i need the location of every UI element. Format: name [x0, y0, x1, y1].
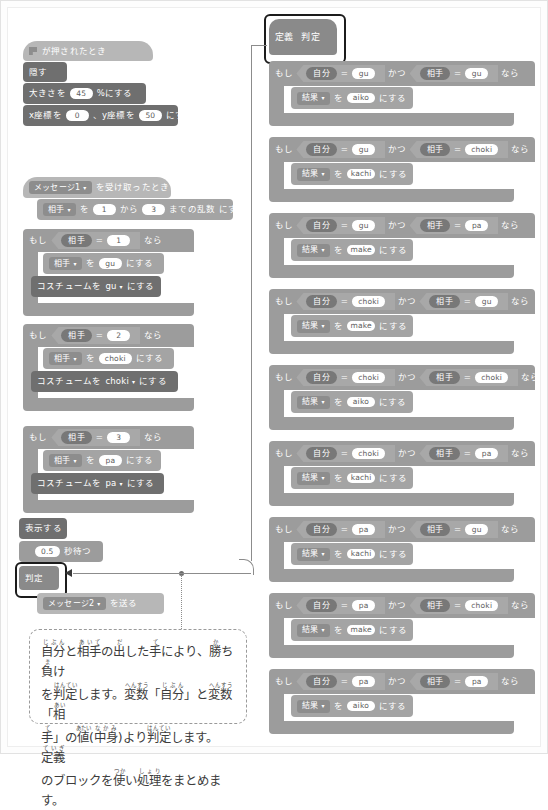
rule-1-condition-a[interactable]: 自分=gu	[296, 141, 385, 158]
if3-var[interactable]: 相手	[61, 431, 91, 444]
rule-7-result-var-dropdown[interactable]: 結果▾	[297, 624, 330, 637]
rule-1-header[interactable]: もし自分=guかつ相手=chokiなら	[269, 137, 535, 162]
rule-7-set-result[interactable]: 結果▾をmakeにする	[291, 619, 413, 641]
rule-6-condition-a[interactable]: 自分=pa	[296, 521, 385, 538]
if1-set-value[interactable]: gu	[99, 258, 122, 269]
if2-var[interactable]: 相手	[61, 329, 91, 342]
block-wait-seconds[interactable]: 0.5 秒待つ	[19, 541, 103, 562]
rule-4-set-result[interactable]: 結果▾をaikoにする	[291, 391, 413, 413]
goto-x-value[interactable]: 0	[66, 110, 89, 121]
block-set-aite-random[interactable]: 相手 ▾ を 1 から 3 までの乱数 にする	[37, 199, 233, 220]
hat-when-receive-message1[interactable]: メッセージ1 ▾ を受け取ったとき	[23, 177, 171, 198]
rule-4-b-value[interactable]: choki	[475, 372, 508, 383]
rule-6-b-value[interactable]: gu	[465, 524, 488, 535]
rule-3-result-value[interactable]: make	[347, 321, 376, 332]
if1-var[interactable]: 相手	[61, 234, 91, 247]
block-hide[interactable]: 隠す	[23, 62, 67, 82]
rule-1-b-value[interactable]: choki	[465, 144, 498, 155]
rule-2-header[interactable]: もし自分=guかつ相手=paなら	[269, 213, 535, 238]
rule-8-result-var-dropdown[interactable]: 結果▾	[297, 700, 330, 713]
rule-1-condition-b[interactable]: 相手=choki	[410, 141, 509, 158]
rule-2-result-value[interactable]: make	[347, 245, 376, 256]
if-block-1-header[interactable]: もし 相手 = 1 なら	[23, 229, 194, 252]
rule-3-set-result[interactable]: 結果▾をmakeにする	[291, 315, 413, 337]
rule-2-set-result[interactable]: 結果▾をmakeにする	[291, 239, 413, 261]
rule-4-a-value[interactable]: choki	[352, 372, 385, 383]
rule-4-header[interactable]: もし自分=chokiかつ相手=chokiなら	[269, 365, 535, 390]
rule-3-result-var-dropdown[interactable]: 結果▾	[297, 320, 330, 333]
rule-8-a-var[interactable]: 自分	[306, 675, 336, 688]
rule-7-condition-a[interactable]: 自分=pa	[296, 597, 385, 614]
rule-5-b-value[interactable]: pa	[475, 448, 498, 459]
if3-condition[interactable]: 相手 = 3	[51, 429, 140, 446]
rule-3-a-value[interactable]: choki	[352, 296, 385, 307]
if2-condition[interactable]: 相手 = 2	[51, 327, 140, 344]
rule-7-header[interactable]: もし自分=paかつ相手=chokiなら	[269, 593, 535, 618]
if3-set-aite[interactable]: 相手 ▾ を pa にする	[43, 450, 161, 471]
if3-set-value[interactable]: pa	[99, 455, 122, 466]
block-broadcast-message2[interactable]: メッセージ2 ▾ を送る	[37, 593, 164, 614]
block-call-hantei[interactable]: 判定	[19, 566, 59, 590]
rule-0-condition-a[interactable]: 自分=gu	[296, 65, 385, 82]
rule-8-result-value[interactable]: aiko	[347, 701, 375, 712]
wait-value[interactable]: 0.5	[35, 546, 60, 557]
block-set-size[interactable]: 大きさを 45 %にする	[23, 83, 146, 104]
rule-7-b-var[interactable]: 相手	[420, 599, 450, 612]
if2-costume-dropdown[interactable]: choki ▾	[105, 377, 135, 386]
rule-3-condition-b[interactable]: 相手=gu	[419, 293, 508, 310]
rule-7-condition-b[interactable]: 相手=choki	[410, 597, 509, 614]
rule-6-condition-b[interactable]: 相手=gu	[410, 521, 499, 538]
rule-2-condition-a[interactable]: 自分=gu	[296, 217, 385, 234]
rule-3-header[interactable]: もし自分=chokiかつ相手=guなら	[269, 289, 535, 314]
rule-0-set-result[interactable]: 結果▾をaikoにする	[291, 87, 413, 109]
rule-1-b-var[interactable]: 相手	[420, 143, 450, 156]
set-aite-var-dropdown[interactable]: 相手 ▾	[43, 203, 76, 216]
if2-set-var-dropdown[interactable]: 相手 ▾	[49, 352, 82, 365]
rule-0-b-var[interactable]: 相手	[420, 67, 450, 80]
broadcast-message-dropdown[interactable]: メッセージ2 ▾	[43, 597, 106, 610]
rule-5-result-var-dropdown[interactable]: 結果▾	[297, 472, 330, 485]
if2-switch-costume[interactable]: コスチュームを choki ▾ にする	[31, 371, 178, 392]
if3-set-var-dropdown[interactable]: 相手 ▾	[49, 454, 82, 467]
rule-0-condition-b[interactable]: 相手=gu	[410, 65, 499, 82]
rule-1-result-var-dropdown[interactable]: 結果▾	[297, 168, 330, 181]
if1-switch-costume[interactable]: コスチュームを gu ▾ にする	[31, 276, 161, 297]
rule-4-condition-b[interactable]: 相手=choki	[419, 369, 518, 386]
rule-4-a-var[interactable]: 自分	[306, 371, 336, 384]
if2-set-value[interactable]: choki	[99, 353, 132, 364]
if1-value[interactable]: 1	[107, 235, 130, 246]
rule-1-a-var[interactable]: 自分	[306, 143, 336, 156]
rule-5-condition-a[interactable]: 自分=choki	[296, 445, 395, 462]
rule-2-b-var[interactable]: 相手	[420, 219, 450, 232]
rule-4-result-value[interactable]: aiko	[347, 397, 375, 408]
rule-1-set-result[interactable]: 結果▾をkachiにする	[291, 163, 413, 185]
rule-5-condition-b[interactable]: 相手=pa	[419, 445, 508, 462]
rule-5-a-var[interactable]: 自分	[306, 447, 336, 460]
rule-6-b-var[interactable]: 相手	[420, 523, 450, 536]
random-from-value[interactable]: 1	[93, 204, 116, 215]
rule-6-header[interactable]: もし自分=paかつ相手=guなら	[269, 517, 535, 542]
define-hantei-block[interactable]: 定義 判定	[269, 19, 337, 55]
rule-0-result-var-dropdown[interactable]: 結果▾	[297, 92, 330, 105]
hat-when-flag-clicked[interactable]: が押されたとき	[23, 41, 153, 61]
rule-8-condition-a[interactable]: 自分=pa	[296, 673, 385, 690]
rule-8-b-var[interactable]: 相手	[420, 675, 450, 688]
receive-message-dropdown[interactable]: メッセージ1 ▾	[29, 181, 92, 194]
rule-7-a-value[interactable]: pa	[352, 600, 375, 611]
rule-5-a-value[interactable]: choki	[352, 448, 385, 459]
rule-7-a-var[interactable]: 自分	[306, 599, 336, 612]
set-size-value[interactable]: 45	[70, 88, 93, 99]
rule-2-b-value[interactable]: pa	[465, 220, 488, 231]
rule-7-b-value[interactable]: choki	[465, 600, 498, 611]
rule-0-result-value[interactable]: aiko	[347, 93, 375, 104]
if1-condition[interactable]: 相手 = 1	[51, 232, 140, 249]
rule-2-a-var[interactable]: 自分	[306, 219, 336, 232]
if2-value[interactable]: 2	[107, 330, 130, 341]
rule-1-result-value[interactable]: kachi	[347, 169, 376, 180]
rule-3-b-value[interactable]: gu	[475, 296, 498, 307]
if-block-3-header[interactable]: もし 相手 = 3 なら	[23, 426, 194, 449]
random-to-value[interactable]: 3	[142, 204, 165, 215]
rule-3-b-var[interactable]: 相手	[429, 295, 459, 308]
rule-0-a-value[interactable]: gu	[352, 68, 375, 79]
if1-set-var-dropdown[interactable]: 相手 ▾	[49, 257, 82, 270]
